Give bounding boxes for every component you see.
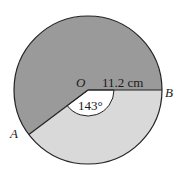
- angle-label: 143°: [78, 98, 103, 113]
- center-label: O: [76, 75, 86, 90]
- circle-sector-diagram: O 11.2 cm B A 143°: [0, 0, 186, 177]
- radius-label: 11.2 cm: [102, 75, 143, 90]
- point-a-label: A: [9, 126, 18, 141]
- point-b-label: B: [165, 85, 173, 100]
